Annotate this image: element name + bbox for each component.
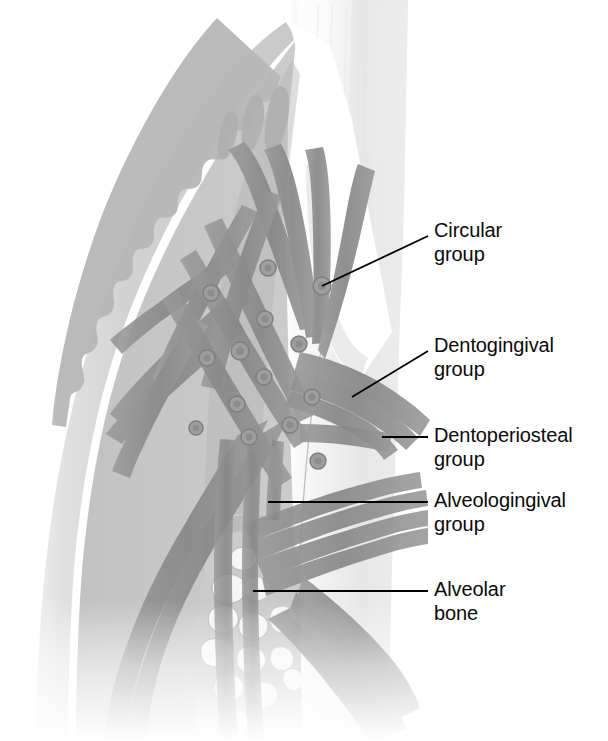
label-dentoperiosteal-group: Dentoperiostealgroup [434, 424, 573, 471]
left-fade [0, 0, 60, 741]
label-dentogingival-line2: group [434, 358, 485, 380]
label-alveolar-bone: Alveolarbone [434, 578, 505, 625]
label-alveologingival-group: Alveologingivalgroup [434, 489, 566, 536]
label-dentoperiosteal-line1: Dentoperiosteal [434, 424, 573, 446]
label-alveolar-bone-line1: Alveolar [434, 578, 505, 600]
label-circular-group: Circulargroup [434, 219, 502, 266]
label-circular-line1: Circular [434, 219, 502, 241]
label-alveolar-bone-line2: bone [434, 602, 478, 624]
label-dentogingival-group: Dentogingivalgroup [434, 334, 554, 381]
label-dentogingival-line1: Dentogingival [434, 334, 554, 356]
bottom-fade [0, 600, 608, 741]
label-alveologingival-line2: group [434, 513, 485, 535]
label-alveologingival-line1: Alveologingival [434, 489, 566, 511]
label-circular-line2: group [434, 243, 485, 265]
label-dentoperiosteal-line2: group [434, 448, 485, 470]
